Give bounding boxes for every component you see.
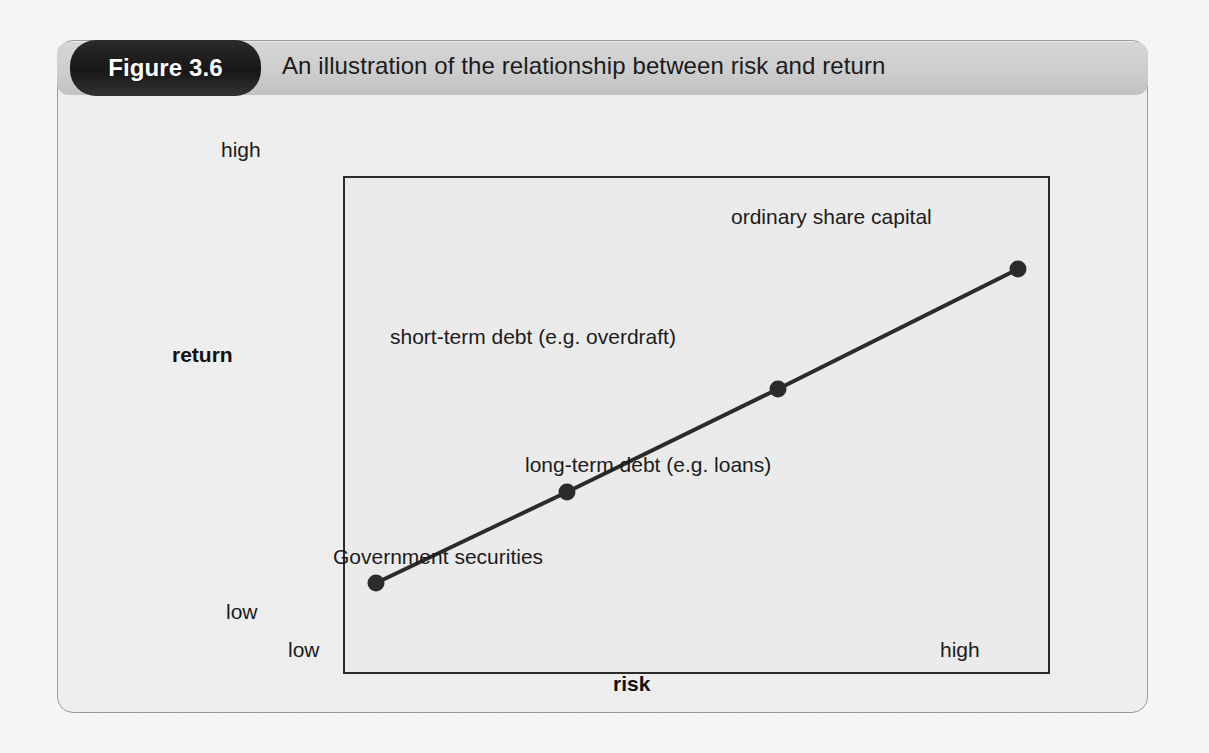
data-point-long-term-debt[interactable] [559, 484, 576, 501]
y-axis-tick-high: high [221, 138, 261, 162]
data-point-ordinary-share-capital[interactable] [1010, 261, 1027, 278]
x-axis-tick-low: low [288, 638, 320, 662]
figure-number-label: Figure 3.6 [108, 54, 222, 82]
figure-title: An illustration of the relationship betw… [282, 52, 886, 80]
annotation-ordinary-share-capital: ordinary share capital [731, 205, 932, 229]
x-axis-tick-high: high [940, 638, 980, 662]
chart-plot-area [343, 176, 1050, 674]
data-point-short-term-debt[interactable] [770, 381, 787, 398]
y-axis-tick-low: low [226, 600, 258, 624]
annotation-short-term-debt: short-term debt (e.g. overdraft) [390, 325, 676, 349]
figure-number-badge: Figure 3.6 [70, 40, 261, 96]
chart-svg [343, 176, 1050, 674]
data-point-government-securities[interactable] [368, 575, 385, 592]
x-axis-title: risk [613, 672, 650, 696]
y-axis-title: return [172, 343, 233, 367]
annotation-long-term-debt: long-term debt (e.g. loans) [525, 453, 771, 477]
risk-return-line [376, 269, 1018, 583]
annotation-government-securities: Government securities [333, 545, 543, 569]
